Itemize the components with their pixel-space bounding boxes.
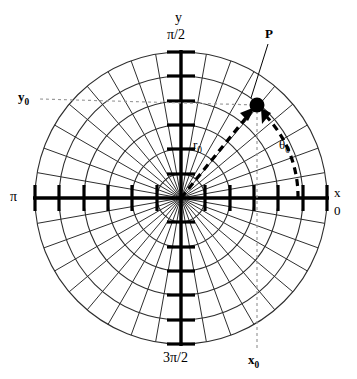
- angle-label-pi: π: [10, 189, 17, 205]
- polar-coordinate-figure: y π/2 3π/2 π x 0 P y0 x0 r0 θ0: [0, 0, 357, 379]
- angle-label-pi-over-2: π/2: [167, 27, 185, 43]
- point-p-marker: [250, 98, 265, 113]
- axis-label-y: y: [175, 10, 182, 26]
- y0-guide-line: [40, 99, 257, 105]
- point-label-p: P: [265, 26, 273, 42]
- label-x-zero-subscript: 0: [255, 360, 260, 370]
- label-theta-zero-subscript: 0: [285, 145, 290, 155]
- label-y-zero-subscript: 0: [25, 97, 30, 107]
- angle-label-3pi-over-2: 3π/2: [163, 350, 188, 366]
- angle-label-zero: 0: [334, 203, 341, 219]
- label-theta-zero: θ0: [279, 137, 290, 153]
- label-r-zero-subscript: 0: [197, 145, 202, 155]
- axis-label-x: x: [334, 185, 341, 201]
- polar-grid-svg: [0, 0, 357, 379]
- label-r-zero: r0: [193, 137, 202, 153]
- label-y-zero: y0: [18, 89, 29, 105]
- label-x-zero: x0: [248, 352, 259, 368]
